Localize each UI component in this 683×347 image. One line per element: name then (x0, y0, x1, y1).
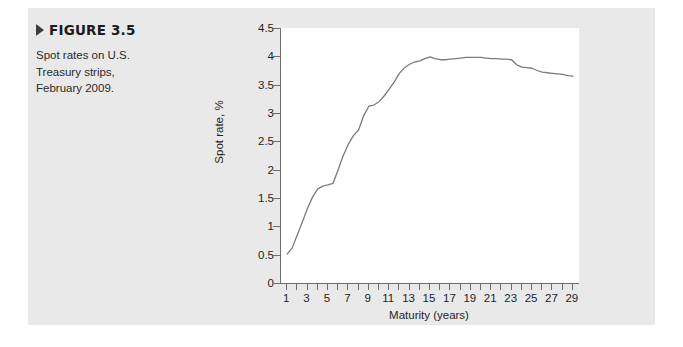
figure-label-row: FIGURE 3.5 (36, 22, 186, 38)
x-axis-tick-mark (317, 284, 318, 290)
x-axis-tick-label: 27 (545, 292, 558, 304)
x-axis-tick-label: 9 (365, 292, 371, 304)
x-axis-tick-mark (307, 284, 308, 290)
x-axis-tick-mark (296, 284, 297, 290)
x-axis-tick-mark (480, 284, 481, 290)
x-axis-tick-mark (521, 284, 522, 290)
y-axis-tick-label: 1.5 (202, 192, 274, 204)
x-axis-tick-mark (429, 284, 430, 290)
x-axis-tick-mark (347, 284, 348, 290)
y-axis-tick-mark (273, 255, 280, 256)
figure-caption: Spot rates on U.S. Treasury strips, Febr… (36, 47, 156, 97)
x-axis-tick-mark (541, 284, 542, 290)
x-axis-tick-mark (439, 284, 440, 290)
spot-rate-series-line (287, 57, 573, 254)
plot-area (280, 28, 579, 284)
x-axis-tick-mark (460, 284, 461, 290)
y-axis-tick-mark (273, 283, 280, 284)
triangle-right-icon (36, 24, 44, 36)
x-axis-tick-mark (562, 284, 563, 290)
x-axis-tick-mark (500, 284, 501, 290)
y-axis-tick-label: 4.5 (202, 22, 274, 34)
x-axis-tick-mark (368, 284, 369, 290)
x-axis-tick-label: 1 (283, 292, 289, 304)
x-axis-tick-mark (409, 284, 410, 290)
x-axis-tick-mark (511, 284, 512, 290)
x-axis-tick-label: 7 (344, 292, 350, 304)
x-axis-tick-label: 19 (463, 292, 476, 304)
figure-container: FIGURE 3.5 Spot rates on U.S. Treasury s… (0, 0, 683, 347)
y-axis-tick-label: 0.5 (202, 249, 274, 261)
x-axis-tick-mark (531, 284, 532, 290)
x-axis-tick-mark (449, 284, 450, 290)
x-axis-tick-mark (490, 284, 491, 290)
x-axis-title: Maturity (years) (280, 309, 578, 321)
y-axis-tick-mark (273, 113, 280, 114)
y-axis-tick-mark (273, 226, 280, 227)
y-axis-tick-label: 4 (202, 50, 274, 62)
x-axis-tick-mark (572, 284, 573, 290)
y-axis-tick-label: 1 (202, 220, 274, 232)
y-axis-tick-mark (273, 56, 280, 57)
x-axis-tick-label: 13 (402, 292, 415, 304)
x-axis-tick-label: 29 (565, 292, 578, 304)
x-axis-tick-label: 23 (504, 292, 517, 304)
x-axis-tick-label: 25 (525, 292, 538, 304)
x-axis-tick-label: 21 (484, 292, 497, 304)
x-axis-tick-label: 11 (382, 292, 394, 304)
x-axis-tick-mark (551, 284, 552, 290)
y-axis-tick-mark (273, 198, 280, 199)
x-axis-tick-mark (378, 284, 379, 290)
y-axis-tick-mark (273, 141, 280, 142)
figure-caption-block: FIGURE 3.5 Spot rates on U.S. Treasury s… (36, 22, 186, 97)
y-axis-title: Spot rate, % (213, 77, 225, 187)
x-axis-tick-mark (398, 284, 399, 290)
figure-label: FIGURE 3.5 (49, 22, 136, 38)
x-axis-tick-mark (327, 284, 328, 290)
x-axis-tick-label: 17 (443, 292, 456, 304)
y-axis-tick-mark (273, 28, 280, 29)
x-axis-tick-label: 5 (324, 292, 330, 304)
x-axis-tick-mark (358, 284, 359, 290)
spot-rate-line-chart (281, 28, 579, 283)
chart: 00.511.522.533.544.5 1357911131517192123… (200, 8, 655, 325)
x-axis-tick-label: 15 (423, 292, 436, 304)
x-axis-tick-mark (286, 284, 287, 290)
y-axis-tick-label: 0 (202, 277, 274, 289)
y-axis-tick-labels: 00.511.522.533.544.5 (200, 8, 274, 325)
x-axis-tick-mark (388, 284, 389, 290)
x-axis-tick-mark (470, 284, 471, 290)
y-axis-tick-mark (273, 85, 280, 86)
y-axis-tick-mark (273, 170, 280, 171)
x-axis-tick-mark (419, 284, 420, 290)
x-axis-tick-mark (337, 284, 338, 290)
x-axis-tick-label: 3 (303, 292, 309, 304)
